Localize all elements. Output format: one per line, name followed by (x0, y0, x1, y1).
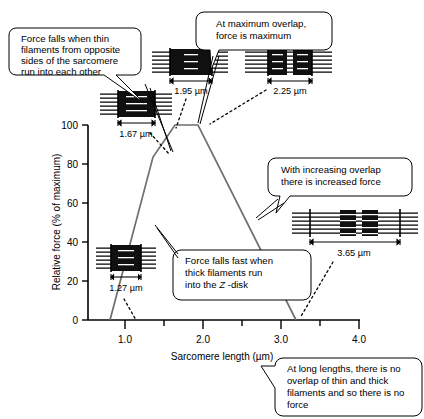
callout-4-line-3: into the Z -disk (185, 279, 248, 290)
dimension-arrow-1-95 (170, 78, 212, 84)
x-tick-label-3: 3.0 (274, 334, 288, 345)
leader-dash-1-95 (176, 99, 186, 128)
callout-3-line-2: there is increased force (281, 176, 381, 187)
thick-filament-band-right-3-65 (362, 210, 378, 236)
callout-4-line-2: thick filaments run (185, 267, 262, 278)
callout-5-line-2: overlap of thin and thick (287, 375, 389, 386)
callout-2-line-1: At maximum overlap, (216, 18, 306, 29)
callout-1-line-2: filaments from opposite (21, 44, 120, 55)
dimension-arrow-1-67 (118, 120, 155, 126)
y-tick-label-100: 100 (61, 120, 78, 131)
callout-increasing-overlap[interactable]: With increasing overlap there is increas… (256, 158, 412, 220)
dimension-arrow-3-65 (310, 239, 400, 245)
callout-5-line-3: filaments and so there is no (287, 387, 404, 398)
callout-4-leader-b (157, 228, 178, 258)
thin-filament-lines-2-25 (245, 52, 332, 72)
callout-3-line-1: With increasing overlap (281, 164, 381, 175)
leader-dash-1-27 (124, 299, 136, 320)
callout-1-line-4: run into each other (21, 66, 102, 77)
y-tick-label-60: 60 (67, 198, 79, 209)
x-tick-label-2: 2.0 (196, 334, 210, 345)
callout-thick-filaments-z-disk[interactable]: Force falls fast when thick filaments ru… (155, 225, 311, 300)
x-axis-ticks (125, 320, 359, 329)
callout-1-line-1: Force falls when thin (21, 33, 109, 44)
dimension-arrow-2-25 (268, 78, 312, 84)
callout-4-line3-post: -disk (225, 279, 248, 290)
y-tick-label-40: 40 (67, 237, 79, 248)
y-axis-ticks (82, 125, 88, 320)
dimension-label-2-25: 2.25 µm (273, 86, 307, 96)
y-tick-label-0: 0 (72, 315, 78, 326)
callout-4-line3-pre: into the (185, 279, 219, 290)
sarcomere-diagram-3-65: 3.65 µm (292, 209, 418, 258)
y-tick-label-20: 20 (67, 276, 79, 287)
dimension-label-1-27: 1.27 µm (109, 283, 143, 293)
length-tension-figure: 0 20 40 60 80 100 1.0 2.0 3.0 4.0 Relati… (0, 0, 424, 419)
y-tick-label-80: 80 (67, 159, 79, 170)
callout-1-line-3: sides of the sarcomere (21, 55, 118, 66)
leader-dash-2-25 (210, 90, 266, 124)
x-axis-title: Sarcomere length (µm) (171, 351, 273, 362)
dimension-label-1-95: 1.95 µm (174, 86, 208, 96)
callout-2-line-2: force is maximum (216, 30, 291, 41)
y-axis-tick-labels: 0 20 40 60 80 100 (61, 120, 78, 326)
callout-5-line-1: At long lengths, there is no (287, 363, 401, 374)
callout-4-line-1: Force falls fast when (185, 255, 273, 266)
sarcomere-diagram-2-25: 2.25 µm (245, 48, 332, 96)
callout-no-overlap-no-force[interactable]: At long lengths, there is no overlap of … (261, 358, 422, 416)
sarcomere-diagram-1-27: 1.27 µm (96, 244, 156, 293)
figure-canvas: 0 20 40 60 80 100 1.0 2.0 3.0 4.0 Relati… (0, 0, 424, 419)
x-tick-label-4: 4.0 (352, 334, 366, 345)
x-axis-tick-labels: 1.0 2.0 3.0 4.0 (118, 334, 366, 345)
callout-5-line-4: force (287, 399, 308, 410)
thick-filament-band-left-3-65 (340, 210, 356, 236)
dimension-label-1-67: 1.67 µm (119, 129, 153, 139)
dimension-label-3-65: 3.65 µm (337, 248, 371, 258)
y-axis-title: Relative force (% of maximum) (51, 154, 62, 291)
dimension-arrow-1-27 (111, 274, 141, 280)
axes-group: 0 20 40 60 80 100 1.0 2.0 3.0 4.0 Relati… (51, 120, 366, 363)
x-tick-label-1: 1.0 (118, 334, 132, 345)
